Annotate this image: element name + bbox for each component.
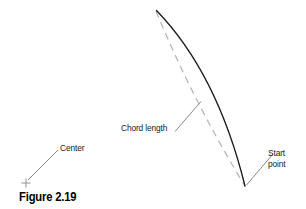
- chord-line: [156, 11, 245, 186]
- label-start-point-line2: point: [268, 158, 285, 169]
- center-cross-icon: [22, 179, 31, 188]
- center-leader-line: [28, 150, 58, 180]
- chord-leader-line: [175, 102, 201, 132]
- figure-drawing: [0, 0, 306, 209]
- figure-caption: Figure 2.19: [19, 190, 76, 204]
- figure-canvas: Center Chord length Start point Figure 2…: [0, 0, 306, 209]
- label-start-point: Start point: [268, 147, 285, 169]
- label-center: Center: [60, 143, 84, 153]
- arc-curve: [157, 11, 246, 187]
- label-chord-length: Chord length: [121, 123, 167, 133]
- label-start-point-line1: Start: [268, 147, 285, 158]
